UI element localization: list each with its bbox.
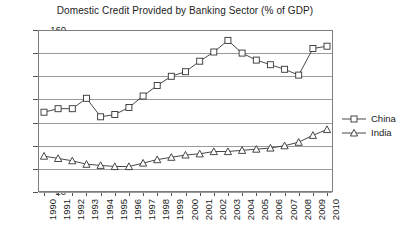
legend-label: India — [371, 127, 392, 139]
legend-triangle-icon — [341, 127, 367, 139]
x-axis-tick-label: 1990 — [48, 199, 58, 220]
x-axis-tick-label: 2003 — [232, 199, 242, 220]
gridline — [39, 123, 332, 124]
legend-item-india[interactable]: India — [341, 126, 396, 140]
x-axis-tick-label: 2010 — [331, 199, 341, 220]
gridline — [39, 99, 332, 100]
chart-container: Domestic Credit Provided by Banking Sect… — [0, 0, 409, 242]
x-axis-tick-label: 2001 — [204, 199, 214, 220]
chart-legend: ChinaIndia — [341, 112, 396, 140]
x-axis-tick-label: 1993 — [90, 199, 100, 220]
gridline — [39, 169, 332, 170]
x-axis-tick-label: 2007 — [289, 199, 299, 220]
legend-label: China — [371, 113, 396, 125]
gridline — [39, 76, 332, 77]
x-axis-tick-label: 1999 — [175, 199, 185, 220]
x-axis-tick-label: 2000 — [190, 199, 200, 220]
x-axis-tick-label: 1992 — [76, 199, 86, 220]
x-axis-tick-label: 2005 — [260, 199, 270, 220]
x-axis-tick-label: 1996 — [133, 199, 143, 220]
legend-square-icon — [341, 113, 367, 125]
x-axis-tick-label: 1997 — [147, 199, 157, 220]
gridline — [39, 146, 332, 147]
y-axis-tick-mark — [33, 192, 38, 193]
x-axis-tick-label: 1994 — [105, 199, 115, 220]
chart-title: Domestic Credit Provided by Banking Sect… — [0, 5, 370, 16]
x-axis-tick-label: 2002 — [218, 199, 228, 220]
x-axis-tick-label: 2009 — [317, 199, 327, 220]
x-axis-tick-label: 1995 — [119, 199, 129, 220]
x-axis-tick-label: 2006 — [274, 199, 284, 220]
gridline — [39, 53, 332, 54]
plot-area — [38, 30, 333, 192]
x-axis-tick-label: 2008 — [303, 199, 313, 220]
x-axis-tick-label: 2004 — [246, 199, 256, 220]
x-axis-tick-label: 1991 — [62, 199, 72, 220]
legend-item-china[interactable]: China — [341, 112, 396, 126]
gridline — [39, 192, 332, 193]
x-axis-tick-label: 1998 — [161, 199, 171, 220]
